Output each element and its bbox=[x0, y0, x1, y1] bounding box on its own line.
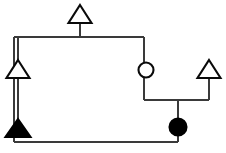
pedigree-symbols bbox=[6, 5, 221, 137]
symbol-bottom-left-male-affected-male-affected bbox=[6, 119, 31, 137]
pedigree-canvas bbox=[0, 0, 226, 153]
symbol-middle-female-female-unaffected bbox=[139, 63, 154, 78]
symbol-bottom-right-female-affected-female-affected bbox=[170, 119, 187, 136]
symbol-top-male-male-unaffected bbox=[69, 5, 92, 23]
pedigree-diagram bbox=[0, 0, 226, 153]
symbol-left-male-male-unaffected bbox=[7, 60, 30, 78]
symbol-right-male-male-unaffected bbox=[198, 60, 221, 78]
